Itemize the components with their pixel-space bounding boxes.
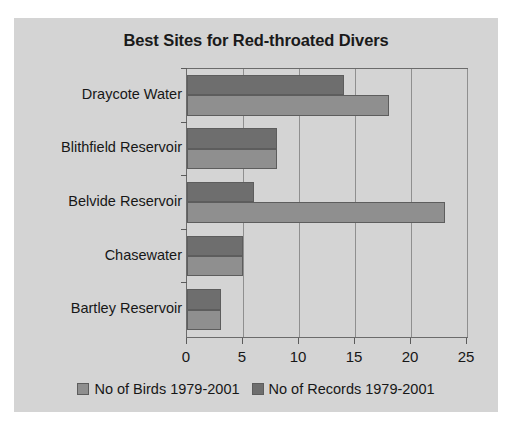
x-axis-label: 5	[222, 348, 262, 365]
legend-swatch	[77, 383, 89, 395]
legend-label: No of Birds 1979-2001	[94, 381, 239, 397]
y-axis-tick	[181, 68, 187, 69]
x-axis-label: 10	[278, 348, 318, 365]
bar-birds	[187, 149, 277, 169]
bar-group	[187, 176, 467, 230]
y-axis-tick	[181, 229, 187, 230]
bar-group	[187, 283, 467, 337]
x-axis-label: 0	[166, 348, 206, 365]
legend-label: No of Records 1979-2001	[269, 381, 435, 397]
legend-entry: No of Birds 1979-2001	[77, 381, 239, 397]
category-label: Draycote Water	[22, 86, 182, 102]
bar-records	[187, 236, 243, 256]
category-label: Chasewater	[22, 247, 182, 263]
y-axis-tick	[181, 282, 187, 283]
chart-legend: No of Birds 1979-2001No of Records 1979-…	[14, 381, 498, 397]
category-axis-labels: Draycote WaterBlithfield ReservoirBelvid…	[22, 68, 182, 338]
bar-group	[187, 69, 467, 123]
x-axis-tick	[186, 338, 187, 344]
category-label: Belvide Reservoir	[22, 193, 182, 209]
chart-figure: Best Sites for Red-throated Divers Drayc…	[14, 18, 498, 412]
category-label: Blithfield Reservoir	[22, 139, 182, 155]
bar-records	[187, 182, 254, 202]
bar-birds	[187, 256, 243, 276]
legend-swatch	[252, 383, 264, 395]
x-axis-tick	[354, 338, 355, 344]
bar-birds	[187, 202, 445, 222]
plot-area	[186, 68, 468, 338]
x-axis-tick	[242, 338, 243, 344]
x-axis-label: 20	[390, 348, 430, 365]
x-axis-label: 15	[334, 348, 374, 365]
x-axis-tick	[410, 338, 411, 344]
chart-title: Best Sites for Red-throated Divers	[14, 31, 498, 50]
bar-birds	[187, 95, 389, 115]
category-label: Bartley Reservoir	[22, 300, 182, 316]
x-axis-tick	[466, 338, 467, 344]
x-axis-label: 25	[446, 348, 486, 365]
bars-layer	[187, 69, 467, 337]
x-axis-tick	[298, 338, 299, 344]
bar-records	[187, 128, 277, 148]
bar-group	[187, 123, 467, 177]
bar-group	[187, 230, 467, 284]
bar-records	[187, 75, 344, 95]
bar-birds	[187, 310, 221, 330]
bar-records	[187, 289, 221, 309]
y-axis-tick	[181, 122, 187, 123]
y-axis-tick	[181, 175, 187, 176]
gridline	[467, 69, 468, 337]
legend-entry: No of Records 1979-2001	[252, 381, 435, 397]
